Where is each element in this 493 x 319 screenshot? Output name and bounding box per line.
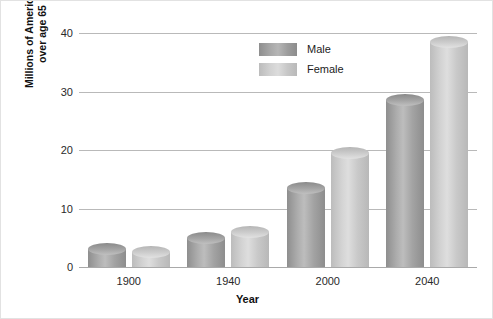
bar-body: [386, 100, 424, 267]
bar-body: [287, 188, 325, 267]
y-axis-tick-10: 10: [61, 203, 73, 215]
bar-cap: [187, 232, 225, 244]
gridline-0: [79, 267, 477, 268]
x-axis-tick-1900: 1900: [117, 275, 141, 287]
y-axis-tick-40: 40: [61, 27, 73, 39]
bar-2040-male: [386, 94, 424, 267]
y-axis-tick-0: 0: [67, 261, 73, 273]
legend-item-male: Male: [259, 39, 344, 59]
bar-cap: [231, 226, 269, 238]
legend-item-female: Female: [259, 59, 344, 79]
y-axis-tick-20: 20: [61, 144, 73, 156]
bar-1940-male: [187, 232, 225, 267]
legend-label-female: Female: [307, 63, 344, 75]
legend-label-male: Male: [307, 43, 331, 55]
bar-2000-female: [331, 147, 369, 267]
bar-body: [331, 153, 369, 267]
x-axis-tick-2000: 2000: [316, 275, 340, 287]
bar-2040-female: [430, 36, 468, 267]
bar-chart-figure: Millions of Americans over age 65 010203…: [0, 0, 493, 319]
y-axis-title-line-2: over age 65: [36, 0, 49, 99]
bar-body: [430, 42, 468, 267]
bar-cap: [331, 147, 369, 159]
y-axis-title-line-1: Millions of Americans: [23, 0, 36, 99]
bar-1940-female: [231, 226, 269, 267]
legend: Male Female: [259, 39, 344, 79]
bar-1900-male: [88, 243, 126, 267]
y-axis-tick-30: 30: [61, 86, 73, 98]
bar-cap: [287, 182, 325, 194]
legend-swatch-female: [259, 63, 297, 76]
x-axis-tick-1940: 1940: [216, 275, 240, 287]
bar-1900-female: [132, 246, 170, 267]
bar-cap: [430, 36, 468, 48]
x-axis-title: Year: [1, 293, 493, 305]
y-axis-title: Millions of Americans over age 65: [23, 0, 49, 99]
legend-swatch-male: [259, 43, 297, 56]
bar-2000-male: [287, 182, 325, 267]
x-axis-tick-2040: 2040: [415, 275, 439, 287]
gridline-40: [79, 33, 477, 34]
gridline-30: [79, 92, 477, 93]
